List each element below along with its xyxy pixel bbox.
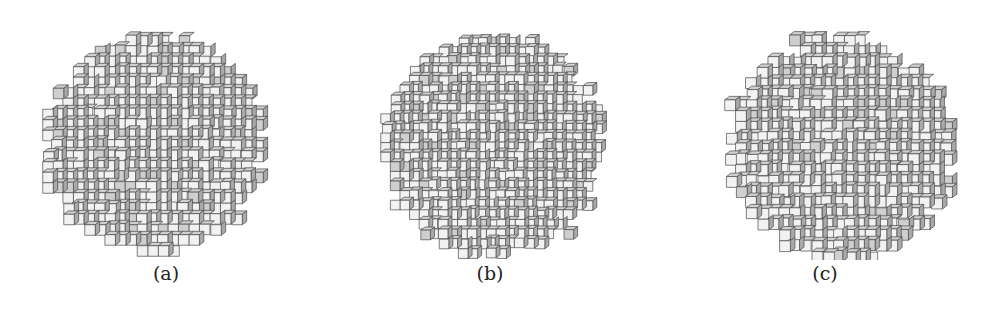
voxel-sphere-a <box>16 0 316 260</box>
panel-b: (b) <box>340 0 640 314</box>
caption-c: (c) <box>675 262 975 284</box>
panel-c: (c) <box>675 0 975 314</box>
panel-a: (a) <box>16 0 316 314</box>
caption-a: (a) <box>16 262 316 284</box>
voxel-sphere-c <box>675 0 975 260</box>
voxel-sphere-b <box>340 0 640 260</box>
caption-b: (b) <box>340 262 640 284</box>
